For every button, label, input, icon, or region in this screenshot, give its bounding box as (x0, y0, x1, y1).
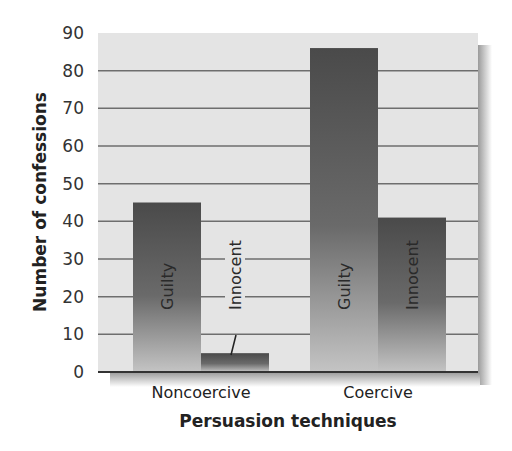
y-tick-label: 30 (62, 249, 84, 269)
y-tick-label: 70 (62, 98, 84, 118)
bar-noncoercive-innocent (201, 353, 269, 372)
y-tick-label: 40 (62, 211, 84, 231)
y-tick-label: 50 (62, 174, 84, 194)
bar-coercive-guilty (310, 48, 378, 372)
y-tick-label: 0 (73, 362, 84, 382)
y-tick-label: 10 (62, 324, 84, 344)
x-axis-title: Persuasion techniques (179, 411, 396, 431)
bar-chart: GuiltyInnocentGuiltyInnocent 01020304050… (0, 0, 512, 451)
bar-label: Guilty (158, 263, 177, 310)
y-axis-ticks: 0102030405060708090 (62, 23, 84, 382)
bar-label: Guilty (335, 263, 354, 310)
plot-shadow-right (478, 45, 492, 385)
y-tick-label: 80 (62, 61, 84, 81)
y-tick-label: 90 (62, 23, 84, 43)
bar-label: Innocent (226, 240, 245, 310)
y-tick-label: 20 (62, 287, 84, 307)
x-category-label: Coercive (343, 383, 413, 402)
y-tick-label: 60 (62, 136, 84, 156)
x-category-label: Noncoercive (151, 383, 250, 402)
bar-label: Innocent (403, 240, 422, 310)
y-axis-title: Number of confessions (30, 92, 50, 312)
